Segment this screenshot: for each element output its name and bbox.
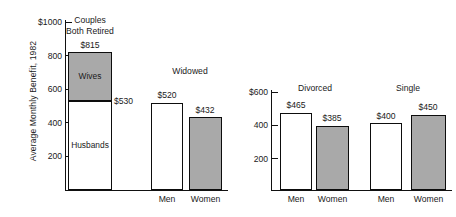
right-ticklabel-400: 400	[222, 120, 268, 130]
couples-husbands-inbar-label: Husbands	[68, 140, 112, 150]
single-men-value-label: $400	[365, 111, 407, 121]
single-women-category-label: Women	[405, 194, 452, 204]
left-ticklabel-800: 800	[10, 51, 62, 61]
widowed-men-bar[interactable]	[151, 103, 183, 190]
right-tick-200	[272, 158, 278, 159]
divorced-men-bar[interactable]	[280, 113, 312, 190]
widowed-group-label: Widowed	[157, 66, 223, 76]
divorced-women-category-label: Women	[310, 194, 355, 204]
widowed-women-bar[interactable]	[189, 117, 222, 190]
single-women-bar[interactable]	[411, 115, 446, 190]
couples-group-label-line1: Couples	[60, 15, 120, 26]
left-ticklabel-200: 200	[10, 151, 62, 161]
right-panel-y-axis	[271, 90, 272, 191]
couples-total-value-label: $815	[60, 40, 120, 50]
widowed-men-value-label: $520	[146, 90, 188, 100]
couples-group-label-line2: Both Retired	[54, 26, 126, 37]
divorced-women-bar[interactable]	[316, 126, 349, 190]
divorced-women-value-label: $385	[310, 113, 354, 123]
right-tick-600	[272, 92, 278, 93]
divorced-group-label: Divorced	[288, 83, 342, 93]
right-tick-400	[272, 125, 278, 126]
right-ticklabel-600: $600	[222, 87, 268, 97]
single-men-category-label: Men	[365, 194, 407, 204]
divorced-men-value-label: $465	[275, 100, 317, 110]
couples-wives-inbar-label: Wives	[68, 71, 112, 81]
widowed-women-value-label: $432	[183, 105, 227, 115]
left-ticklabel-400: 400	[10, 118, 62, 128]
widowed-men-category-label: Men	[146, 194, 188, 204]
single-men-bar[interactable]	[370, 123, 402, 190]
single-women-value-label: $450	[406, 102, 450, 112]
widowed-women-category-label: Women	[183, 194, 228, 204]
left-ticklabel-600: 600	[10, 84, 62, 94]
social-security-benefit-chart: Average Monthly Benefit, 1982 $1000 800 …	[0, 0, 456, 217]
single-group-label: Single	[384, 83, 432, 93]
right-ticklabel-200: 200	[222, 154, 268, 164]
